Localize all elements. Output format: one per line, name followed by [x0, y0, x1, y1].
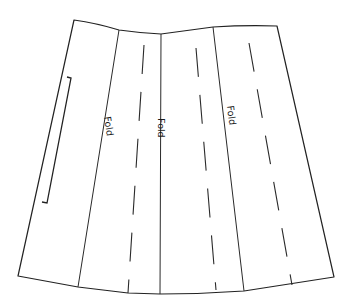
- fold-line-2: [160, 34, 161, 294]
- dashed-line-3: [249, 43, 292, 285]
- dashed-line-2: [196, 48, 216, 290]
- fold-line-3: [213, 27, 244, 291]
- fold-label-3: Fold: [225, 105, 238, 126]
- placement-bracket: [42, 77, 71, 203]
- dashed-line-1: [128, 45, 144, 293]
- fold-label-2: Fold: [156, 118, 167, 138]
- fold-label-1: Fold: [102, 116, 116, 137]
- fold-line-1: [78, 30, 119, 287]
- skirt-pattern-diagram: Fold Fold Fold: [0, 0, 351, 306]
